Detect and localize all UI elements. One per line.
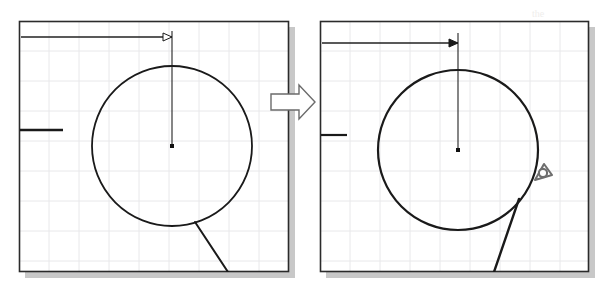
panel-before-paper: [19, 21, 289, 272]
panel-before: [19, 21, 295, 278]
panel-after-paper: [320, 21, 589, 272]
circle-center-point: [456, 148, 460, 152]
panel-after: [320, 21, 595, 278]
figure-container: Figure 2.14Using the Tangent snapto draw…: [0, 0, 606, 291]
illustration-canvas: [0, 0, 606, 291]
snap-cursor-ring-icon: [539, 169, 547, 177]
circle-center-point: [170, 144, 174, 148]
